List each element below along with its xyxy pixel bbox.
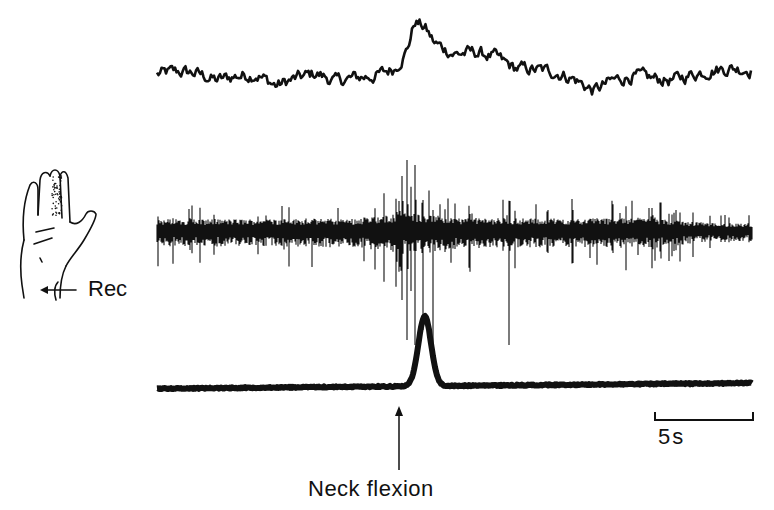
top-trace bbox=[157, 20, 751, 95]
scale-bar bbox=[655, 412, 753, 420]
neck-flexion-label: Neck flexion bbox=[308, 476, 434, 502]
scale-bar-label: 5s bbox=[658, 424, 685, 450]
hand-icon bbox=[21, 170, 96, 300]
neck-flexion-arrow-icon bbox=[395, 406, 403, 470]
rec-arrowhead-icon bbox=[40, 286, 48, 294]
rec-label: Rec bbox=[88, 276, 127, 302]
bottom-event-trace bbox=[157, 316, 752, 389]
nerve-recording-trace bbox=[157, 160, 752, 355]
